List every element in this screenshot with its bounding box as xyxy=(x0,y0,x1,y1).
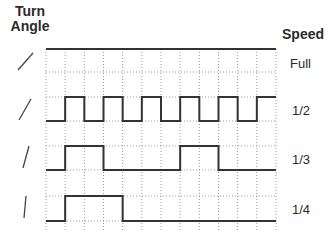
angle-icon-medium xyxy=(19,99,31,120)
waveform-grid xyxy=(0,0,332,242)
angle-icon-shallow xyxy=(18,53,33,70)
angle-icon-near-vertical xyxy=(24,196,26,218)
waveform-1 xyxy=(46,97,276,121)
angle-icon-steep xyxy=(23,146,29,168)
